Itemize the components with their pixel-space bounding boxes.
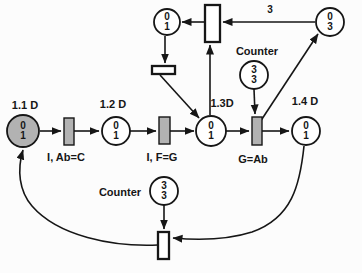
label-transition-t1: I, Ab=C xyxy=(47,151,85,163)
place-1-3-capacity: 1 xyxy=(208,130,214,141)
label-place-1-2: 1.2 D xyxy=(100,98,126,110)
label-place-1-3: 1.3D xyxy=(210,97,233,109)
arc-countertop-to-t3 xyxy=(254,89,255,114)
label-place-1-4: 1.4 D xyxy=(292,95,318,107)
arc-tmid-to-p13 xyxy=(160,75,199,118)
place-1-4-capacity: 1 xyxy=(303,130,309,141)
petri-net-diagram: 0 1 0 3 3 3 0 1 0 1 0 1 0 1 3 3 1.1 D 1.… xyxy=(0,0,362,273)
place-1-2-capacity: 1 xyxy=(113,130,119,141)
label-transition-t2: I, F=G xyxy=(147,151,178,163)
transition-t2 xyxy=(159,117,170,144)
place-1-1-capacity: 1 xyxy=(20,130,26,141)
petri-net-canvas: 0 1 0 3 3 3 0 1 0 1 0 1 0 1 3 3 1.1 D 1.… xyxy=(0,0,362,273)
transition-t1 xyxy=(64,118,74,145)
place-counter-top-capacity: 3 xyxy=(251,74,257,85)
transition-bottom xyxy=(158,232,169,259)
transition-top xyxy=(205,5,220,42)
place-top-right-capacity: 3 xyxy=(327,21,333,32)
transition-t3 xyxy=(252,117,262,145)
label-arc-weight-3: 3 xyxy=(267,4,273,15)
label-counter-bottom: Counter xyxy=(99,186,142,198)
label-place-1-1: 1.1 D xyxy=(12,99,38,111)
label-transition-t3: G=Ab xyxy=(238,153,268,165)
label-counter-top: Counter xyxy=(236,45,279,57)
transition-mid-horizontal xyxy=(152,66,175,74)
place-top-left-capacity: 1 xyxy=(164,21,170,32)
place-counter-bottom-capacity: 3 xyxy=(161,190,167,201)
